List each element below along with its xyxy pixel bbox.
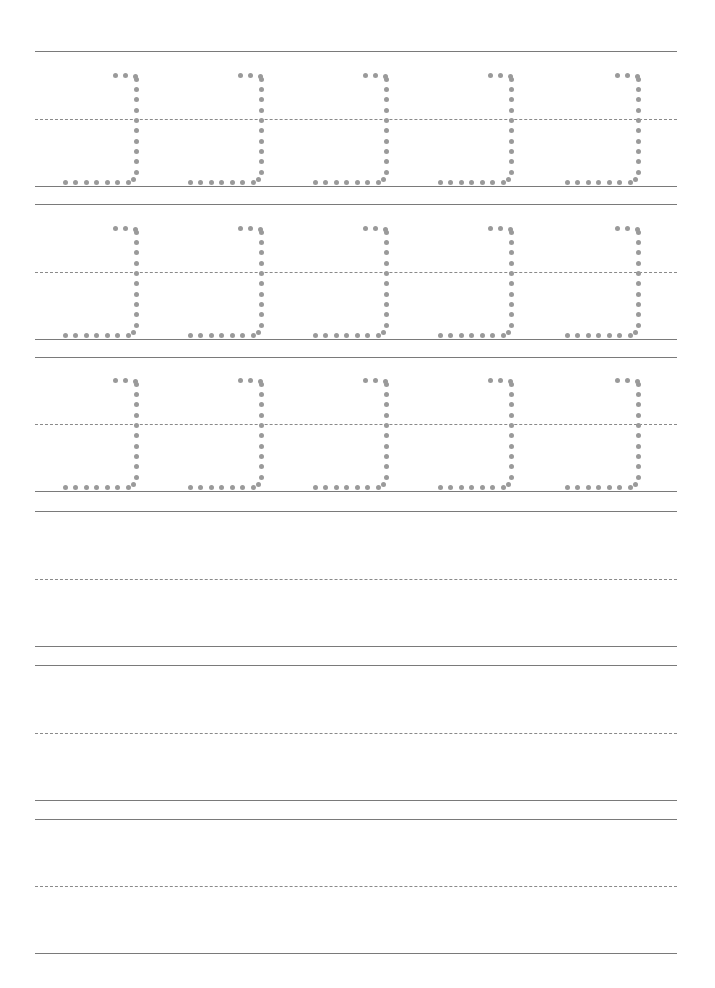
dotted-letter-bet: [564, 376, 644, 496]
trace-dot: [251, 485, 256, 490]
trace-dot: [259, 281, 264, 286]
trace-dot: [134, 240, 139, 245]
trace-dot: [509, 454, 514, 459]
trace-dot: [365, 333, 370, 338]
trace-dot: [134, 159, 139, 164]
trace-dot: [131, 482, 136, 487]
trace-dot: [134, 128, 139, 133]
trace-dot: [313, 180, 318, 185]
trace-dot: [488, 226, 493, 231]
trace-dot: [230, 333, 235, 338]
trace-dot: [384, 312, 389, 317]
trace-dot: [188, 180, 193, 185]
trace-dot: [240, 333, 245, 338]
trace-dot: [509, 392, 514, 397]
trace-dot: [256, 482, 261, 487]
trace-dot: [259, 97, 264, 102]
trace-dot: [384, 87, 389, 92]
trace-dot: [636, 139, 641, 144]
trace-dot: [134, 475, 139, 480]
trace-dot: [506, 177, 511, 182]
trace-dot: [134, 413, 139, 418]
trace-dot: [509, 323, 514, 328]
trace-dot: [256, 330, 261, 335]
trace-dot: [509, 413, 514, 418]
trace-dot: [94, 180, 99, 185]
trace-dot: [115, 485, 120, 490]
trace-dot: [438, 333, 443, 338]
trace-dot: [480, 485, 485, 490]
trace-dot: [219, 485, 224, 490]
trace-dot: [134, 250, 139, 255]
trace-dot: [625, 73, 630, 78]
trace-dot: [115, 333, 120, 338]
trace-dot: [498, 378, 503, 383]
trace-dot: [628, 485, 633, 490]
trace-dot: [509, 97, 514, 102]
trace-dot: [615, 226, 620, 231]
dotted-letter-bet: [437, 376, 517, 496]
dotted-letter-bet: [312, 71, 392, 191]
dotted-letter-bet: [62, 71, 142, 191]
trace-dot: [490, 180, 495, 185]
trace-dot: [633, 482, 638, 487]
trace-dot: [384, 433, 389, 438]
trace-dot: [238, 73, 243, 78]
trace-dot: [373, 73, 378, 78]
trace-dot: [617, 180, 622, 185]
trace-dot: [469, 180, 474, 185]
trace-dot: [383, 227, 388, 232]
trace-dot: [376, 333, 381, 338]
trace-dot: [636, 444, 641, 449]
baseline: [35, 646, 677, 647]
trace-dot: [459, 485, 464, 490]
trace-dot: [131, 177, 136, 182]
trace-dot: [209, 485, 214, 490]
trace-dot: [355, 485, 360, 490]
trace-dot: [586, 180, 591, 185]
trace-dot: [334, 180, 339, 185]
trace-dot: [381, 330, 386, 335]
trace-dot: [219, 180, 224, 185]
trace-dot: [384, 97, 389, 102]
trace-dot: [469, 333, 474, 338]
trace-dot: [355, 333, 360, 338]
trace-dot: [490, 333, 495, 338]
trace-dot: [635, 227, 640, 232]
trace-dot: [323, 180, 328, 185]
trace-dot: [635, 74, 640, 79]
trace-dot: [238, 226, 243, 231]
trace-dot: [459, 333, 464, 338]
top-line: [35, 204, 677, 205]
trace-dot: [381, 177, 386, 182]
trace-dot: [133, 74, 138, 79]
trace-dot: [615, 378, 620, 383]
top-line: [35, 357, 677, 358]
trace-dot: [509, 433, 514, 438]
trace-dot: [134, 292, 139, 297]
trace-dot: [113, 378, 118, 383]
trace-dot: [384, 139, 389, 144]
trace-dot: [509, 292, 514, 297]
trace-dot: [134, 402, 139, 407]
trace-dot: [259, 433, 264, 438]
trace-dot: [105, 180, 110, 185]
trace-dot: [509, 108, 514, 113]
trace-dot: [384, 159, 389, 164]
trace-dot: [633, 177, 638, 182]
dotted-letter-bet: [187, 71, 267, 191]
trace-dot: [636, 271, 641, 276]
trace-dot: [323, 485, 328, 490]
trace-dot: [607, 485, 612, 490]
trace-dot: [636, 413, 641, 418]
trace-dot: [134, 139, 139, 144]
trace-dot: [365, 485, 370, 490]
trace-dot: [376, 485, 381, 490]
trace-dot: [509, 312, 514, 317]
trace-dot: [73, 333, 78, 338]
trace-dot: [134, 261, 139, 266]
top-line: [35, 819, 677, 820]
trace-dot: [259, 423, 264, 428]
trace-dot: [133, 379, 138, 384]
trace-dot: [230, 180, 235, 185]
